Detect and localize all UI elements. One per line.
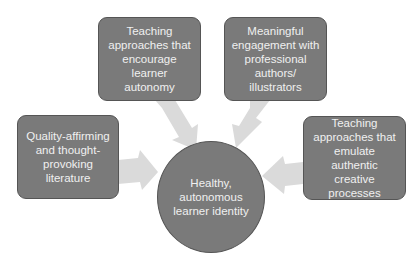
center-label: Healthy, autonomous learner identity xyxy=(168,176,254,218)
node-label: Meaningful engagement with professional … xyxy=(231,24,320,94)
node-creative-processes: Teaching approaches that emulate authent… xyxy=(303,116,406,200)
node-label: Teaching approaches that emulate authent… xyxy=(310,116,399,200)
node-quality-literature: Quality-affirming and thought-provoking … xyxy=(17,115,119,199)
node-teaching-autonomy: Teaching approaches that encourage learn… xyxy=(98,17,201,101)
arrow-top-right xyxy=(232,100,270,148)
node-engagement-authors: Meaningful engagement with professional … xyxy=(224,17,327,101)
arrow-left xyxy=(118,150,158,190)
arrow-right xyxy=(262,156,303,194)
node-label: Quality-affirming and thought-provoking … xyxy=(24,129,112,185)
center-learner-identity: Healthy, autonomous learner identity xyxy=(157,141,265,253)
arrow-top-left xyxy=(155,100,198,150)
node-label: Teaching approaches that encourage learn… xyxy=(105,24,194,94)
